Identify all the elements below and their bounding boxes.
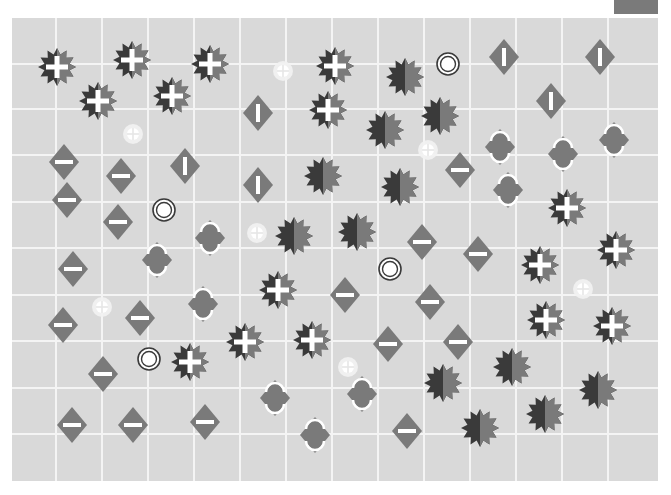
plus-star-piece[interactable]	[256, 268, 300, 312]
horizontal-bar-diamond-piece[interactable]	[43, 305, 83, 345]
split-star-piece[interactable]	[363, 108, 407, 152]
horizontal-bar-diamond-piece[interactable]	[98, 202, 138, 242]
split-star-piece[interactable]	[576, 368, 620, 412]
horizontal-bar-diamond-piece[interactable]	[387, 411, 427, 451]
horizontal-bar-diamond-piece[interactable]	[44, 142, 84, 182]
split-star-piece[interactable]	[418, 94, 462, 138]
vertical-bar-diamond-piece[interactable]	[484, 37, 524, 77]
plus-star-piece[interactable]	[223, 320, 267, 364]
split-star-piece[interactable]	[490, 345, 534, 389]
split-star-piece[interactable]	[383, 55, 427, 99]
split-star-piece[interactable]	[523, 392, 567, 436]
vertical-bar-diamond-piece[interactable]	[165, 146, 205, 186]
vertical-bar-diamond-piece[interactable]	[531, 81, 571, 121]
plus-star-piece[interactable]	[168, 340, 212, 384]
plus-star-piece[interactable]	[545, 186, 589, 230]
ring-target-icon[interactable]	[435, 51, 461, 77]
horizontal-bar-diamond-piece[interactable]	[458, 234, 498, 274]
glow-crosshair-icon[interactable]	[335, 354, 361, 380]
plus-star-piece[interactable]	[306, 88, 350, 132]
split-star-piece[interactable]	[301, 154, 345, 198]
corner-tab	[614, 0, 658, 14]
glow-crosshair-icon[interactable]	[270, 58, 296, 84]
horizontal-bar-diamond-piece[interactable]	[47, 180, 87, 220]
plus-star-piece[interactable]	[594, 228, 638, 272]
horizontal-bar-diamond-piece[interactable]	[440, 150, 480, 190]
horizontal-bar-diamond-piece[interactable]	[185, 402, 225, 442]
split-star-piece[interactable]	[335, 210, 379, 254]
horizontal-bar-diamond-piece[interactable]	[368, 324, 408, 364]
plus-star-piece[interactable]	[518, 243, 562, 287]
grid-line-vertical	[239, 18, 241, 481]
split-star-piece[interactable]	[272, 214, 316, 258]
glow-crosshair-icon[interactable]	[244, 220, 270, 246]
plus-star-piece[interactable]	[110, 38, 154, 82]
vertical-bar-diamond-piece[interactable]	[580, 37, 620, 77]
hourglass-diamond-piece[interactable]	[488, 170, 528, 210]
hourglass-diamond-piece[interactable]	[342, 374, 382, 414]
plus-star-piece[interactable]	[188, 42, 232, 86]
hourglass-diamond-piece[interactable]	[480, 127, 520, 167]
plus-star-piece[interactable]	[290, 318, 334, 362]
horizontal-bar-diamond-piece[interactable]	[438, 322, 478, 362]
split-star-piece[interactable]	[458, 406, 502, 450]
glow-crosshair-icon[interactable]	[120, 121, 146, 147]
horizontal-bar-diamond-piece[interactable]	[402, 222, 442, 262]
ring-target-icon[interactable]	[136, 346, 162, 372]
plus-star-piece[interactable]	[590, 304, 634, 348]
hourglass-diamond-piece[interactable]	[137, 240, 177, 280]
vertical-bar-diamond-piece[interactable]	[238, 165, 278, 205]
ring-target-icon[interactable]	[377, 256, 403, 282]
glow-crosshair-icon[interactable]	[570, 276, 596, 302]
hourglass-diamond-piece[interactable]	[543, 134, 583, 174]
hourglass-diamond-piece[interactable]	[190, 218, 230, 258]
horizontal-bar-diamond-piece[interactable]	[113, 405, 153, 445]
vertical-bar-diamond-piece[interactable]	[238, 93, 278, 133]
glow-crosshair-icon[interactable]	[89, 294, 115, 320]
ring-target-icon[interactable]	[151, 197, 177, 223]
plus-star-piece[interactable]	[35, 45, 79, 89]
hourglass-diamond-piece[interactable]	[594, 120, 634, 160]
plus-star-piece[interactable]	[76, 79, 120, 123]
split-star-piece[interactable]	[421, 361, 465, 405]
horizontal-bar-diamond-piece[interactable]	[52, 405, 92, 445]
horizontal-bar-diamond-piece[interactable]	[410, 282, 450, 322]
horizontal-bar-diamond-piece[interactable]	[83, 354, 123, 394]
split-star-piece[interactable]	[378, 165, 422, 209]
game-board[interactable]	[12, 18, 658, 481]
plus-star-piece[interactable]	[313, 44, 357, 88]
plus-star-piece[interactable]	[524, 298, 568, 342]
horizontal-bar-diamond-piece[interactable]	[101, 156, 141, 196]
horizontal-bar-diamond-piece[interactable]	[120, 298, 160, 338]
horizontal-bar-diamond-piece[interactable]	[325, 275, 365, 315]
hourglass-diamond-piece[interactable]	[183, 284, 223, 324]
hourglass-diamond-piece[interactable]	[255, 378, 295, 418]
horizontal-bar-diamond-piece[interactable]	[53, 249, 93, 289]
glow-crosshair-icon[interactable]	[415, 137, 441, 163]
hourglass-diamond-piece[interactable]	[295, 415, 335, 455]
grid-line-vertical	[515, 18, 517, 481]
plus-star-piece[interactable]	[150, 74, 194, 118]
